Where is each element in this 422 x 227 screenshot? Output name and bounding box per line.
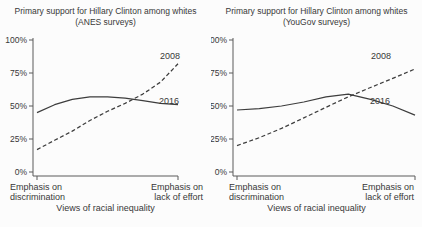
y-tick-label: 75% <box>211 68 227 78</box>
y-tick-label: 75% <box>10 68 27 78</box>
x-axis-right-label: Emphasis on lack of effort <box>151 182 203 202</box>
x-axis-right-label: Emphasis on lack of effort <box>362 182 414 202</box>
y-tick-label: 25% <box>211 134 227 144</box>
y-tick-label: 50% <box>211 101 227 111</box>
series-label-2016: 2016 <box>159 96 179 106</box>
y-tick-label: 50% <box>10 101 27 111</box>
series-label-2016: 2016 <box>370 96 390 106</box>
axis-frame <box>33 38 178 176</box>
series-line-2008 <box>37 64 178 150</box>
y-tick-label: 100% <box>211 35 227 45</box>
x-axis-right-label-line2: lack of effort <box>362 192 414 202</box>
series-label-2008: 2008 <box>160 51 180 61</box>
y-tick-label: 25% <box>10 134 27 144</box>
chart-panel-anes: Primary support for Hillary Clinton amon… <box>0 0 211 227</box>
x-axis-title: Views of racial inequality <box>211 203 422 213</box>
x-axis-left-label-line1: Emphasis on <box>10 182 65 192</box>
x-axis-left-label: Emphasis on discrimination <box>229 182 284 202</box>
x-axis-right-label-line1: Emphasis on <box>362 182 414 192</box>
x-axis-left-label-line2: discrimination <box>229 192 284 202</box>
figure-clinton-primary-support: Primary support for Hillary Clinton amon… <box>0 0 422 227</box>
y-tick-label: 0% <box>215 167 228 177</box>
series-line-2016 <box>37 97 178 113</box>
y-tick-label: 100% <box>5 35 27 45</box>
series-line-2008 <box>237 69 415 146</box>
x-axis-left-label-line2: discrimination <box>10 192 65 202</box>
series-label-2008: 2008 <box>371 51 391 61</box>
x-axis-title: Views of racial inequality <box>0 203 211 213</box>
x-axis-right-label-line2: lack of effort <box>151 192 203 202</box>
x-axis-right-label-line1: Emphasis on <box>151 182 203 192</box>
x-axis-left-label-line1: Emphasis on <box>229 182 284 192</box>
chart-panel-yougov: Primary support for Hillary Clinton amon… <box>211 0 422 227</box>
y-tick-label: 0% <box>15 167 28 177</box>
x-axis-left-label: Emphasis on discrimination <box>10 182 65 202</box>
